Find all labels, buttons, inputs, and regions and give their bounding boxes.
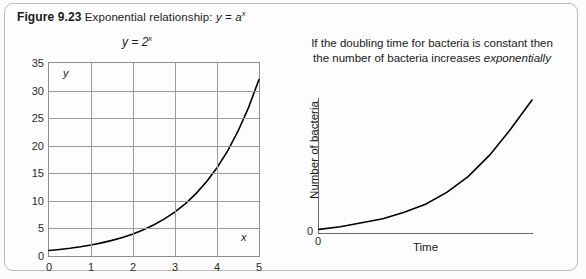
left-chart-x-tick-label: 3 [163, 261, 187, 273]
left-chart-x-axis-ticks: 012345 [48, 261, 260, 277]
figure-container: Figure 9.23 Exponential relationship: y … [0, 0, 586, 279]
left-chart-y-tick-label: 10 [4, 195, 44, 207]
right-chart-plot-area: Number of bacteria Time 0 0 [318, 98, 533, 234]
left-chart-y-tick-label: 15 [4, 167, 44, 179]
left-chart-gridline-horizontal [49, 146, 259, 147]
left-chart-title: y = 2x [122, 35, 152, 49]
right-chart-caption-line1: If the doubling time for bacteria is con… [311, 37, 553, 49]
left-chart-x-tick-label: 2 [121, 261, 145, 273]
left-chart-x-tick-label: 5 [247, 261, 271, 273]
right-chart-caption-emphasis: exponentially [484, 52, 551, 64]
left-chart-gridline-vertical [91, 63, 92, 256]
left-chart-y-tick-label: 25 [4, 112, 44, 124]
left-chart-x-tick-label: 0 [37, 261, 61, 273]
figure-caption: Figure 9.23 Exponential relationship: y … [17, 10, 246, 24]
left-chart-plot-area: y x [48, 62, 260, 257]
left-chart-gridline-horizontal [49, 228, 259, 229]
left-chart-gridline-horizontal [49, 201, 259, 202]
figure-number: Figure 9.23 [17, 10, 81, 24]
left-chart-y-tick-label: 35 [4, 57, 44, 69]
figure-caption-text: Exponential relationship: [85, 11, 213, 23]
right-chart-y-origin-label: 0 [307, 225, 313, 237]
left-chart-y-tick-label: 5 [4, 222, 44, 234]
left-chart-gridline-horizontal [49, 173, 259, 174]
left-chart-gridline-vertical [175, 63, 176, 256]
left-chart-x-tick-label: 1 [79, 261, 103, 273]
left-chart-y-axis-ticks: 05101520253035 [0, 62, 44, 257]
right-chart-caption-line2: the number of bacteria increases [313, 52, 484, 64]
left-chart-panel: y = 2x 05101520253035 y x 012345 [0, 30, 280, 275]
left-chart-gridline-vertical [217, 63, 218, 256]
figure-caption-formula-exponent: x [242, 9, 246, 18]
right-chart-y-axis-label: Number of bacteria [308, 50, 320, 250]
right-chart-curve [318, 98, 533, 234]
left-chart-curve [49, 63, 259, 256]
left-chart-y-tick-label: 20 [4, 140, 44, 152]
right-chart-panel: If the doubling time for bacteria is con… [282, 36, 582, 276]
left-chart-y-tick-label: 30 [4, 85, 44, 97]
right-chart-caption: If the doubling time for bacteria is con… [282, 36, 582, 66]
left-chart-y-axis-letter: y [63, 67, 69, 79]
left-chart-x-axis-letter: x [241, 231, 247, 243]
left-chart-gridline-horizontal [49, 91, 259, 92]
left-chart-gridline-vertical [133, 63, 134, 256]
left-chart-gridline-horizontal [49, 118, 259, 119]
left-chart-x-tick-label: 4 [205, 261, 229, 273]
right-chart-x-axis-label: Time [318, 241, 533, 253]
left-chart-title-base: y = 2 [122, 35, 148, 49]
figure-caption-formula: y = a [216, 11, 242, 23]
right-chart-x-origin-label: 0 [315, 235, 321, 247]
left-chart-title-exponent: x [148, 34, 152, 43]
